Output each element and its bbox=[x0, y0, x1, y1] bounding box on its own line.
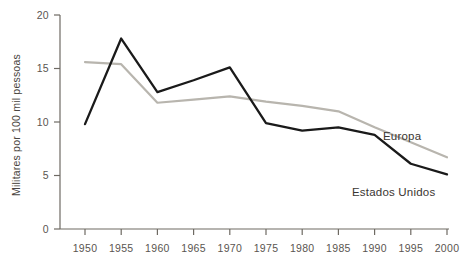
chart-series-group bbox=[85, 39, 447, 175]
x-tick-label: 1965 bbox=[181, 242, 206, 254]
x-tick-label: 1975 bbox=[254, 242, 279, 254]
y-tick-label: 20 bbox=[37, 9, 49, 21]
y-axis-title: Militares por 100 mil pessoas bbox=[10, 54, 22, 196]
y-tick-label: 15 bbox=[37, 62, 49, 74]
x-tick-label: 1980 bbox=[290, 242, 315, 254]
x-tick-label: 1985 bbox=[326, 242, 351, 254]
x-tick-label: 1960 bbox=[145, 242, 170, 254]
chart-container: 05101520 1950195519601965197019751980198… bbox=[0, 0, 464, 271]
series-line-estados-unidos bbox=[85, 39, 447, 175]
x-tick-group: 1950195519601965197019751980198519901995… bbox=[73, 229, 460, 254]
x-tick-label: 1995 bbox=[399, 242, 424, 254]
series-label-europa: Europa bbox=[383, 130, 422, 142]
y-tick-label: 0 bbox=[43, 223, 49, 235]
x-tick-label: 1990 bbox=[362, 242, 387, 254]
series-line-europa bbox=[85, 62, 447, 157]
y-tick-group: 05101520 bbox=[37, 9, 60, 235]
y-tick-label: 5 bbox=[43, 169, 49, 181]
x-tick-label: 2000 bbox=[435, 242, 460, 254]
x-tick-label: 1955 bbox=[109, 242, 134, 254]
x-tick-label: 1970 bbox=[218, 242, 243, 254]
y-tick-label: 10 bbox=[37, 116, 49, 128]
line-chart: 05101520 1950195519601965197019751980198… bbox=[0, 0, 464, 271]
series-label-estados-unidos: Estados Unidos bbox=[352, 186, 435, 198]
x-tick-label: 1950 bbox=[73, 242, 98, 254]
